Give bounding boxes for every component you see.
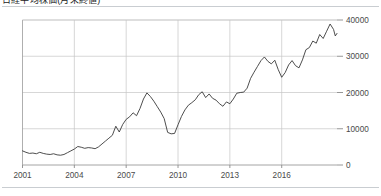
y-axis-tick-labels: 010000200003000040000	[346, 16, 369, 170]
y-tick-label: 20000	[346, 89, 369, 98]
x-tick-label: 2001	[13, 171, 32, 180]
series-line-index	[23, 24, 338, 155]
horizontal-gridlines	[23, 20, 338, 129]
y-tick-label: 30000	[346, 52, 369, 61]
x-tick-label: 2010	[169, 171, 188, 180]
x-tick-label: 2007	[117, 171, 136, 180]
axis-tickmarks	[23, 20, 344, 168]
y-tick-label: 0	[346, 161, 351, 170]
x-tick-label: 2016	[273, 171, 292, 180]
y-tick-label: 10000	[346, 125, 369, 134]
x-axis-tick-labels: 200120042007201020132016	[13, 171, 291, 180]
y-tick-label: 40000	[346, 16, 369, 25]
chart-canvas: 010000200003000040000 200120042007201020…	[0, 0, 381, 196]
line-chart: 010000200003000040000 200120042007201020…	[0, 0, 381, 196]
x-tick-label: 2004	[65, 171, 84, 180]
x-tick-label: 2013	[221, 171, 240, 180]
data-series-group	[23, 24, 338, 155]
